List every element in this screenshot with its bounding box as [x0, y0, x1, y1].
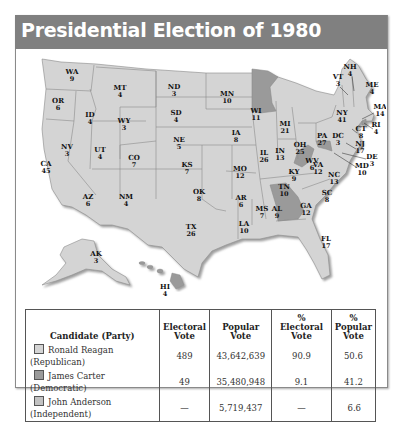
svg-text:6: 6: [56, 104, 61, 112]
svg-text:41: 41: [337, 116, 346, 124]
svg-text:3: 3: [336, 139, 341, 147]
svg-text:3: 3: [336, 80, 341, 88]
svg-text:7: 7: [185, 168, 190, 176]
svg-text:5: 5: [177, 143, 182, 151]
svg-text:21: 21: [280, 127, 289, 135]
svg-text:12: 12: [301, 209, 310, 217]
anderson-swatch: [34, 396, 44, 406]
svg-text:12: 12: [235, 172, 244, 180]
popular-vote: 35,480,948: [210, 369, 272, 395]
svg-text:6: 6: [86, 200, 91, 208]
svg-text:8: 8: [197, 195, 202, 203]
pct-electoral: 90.9: [272, 343, 332, 369]
svg-text:45: 45: [41, 167, 51, 175]
svg-text:6: 6: [239, 201, 244, 209]
pct-electoral: —: [272, 395, 332, 422]
svg-text:10: 10: [279, 190, 289, 198]
svg-text:3: 3: [172, 90, 177, 98]
svg-text:17: 17: [321, 242, 330, 250]
svg-text:8: 8: [325, 196, 330, 204]
header-popular-vote: Popular Vote: [210, 310, 272, 344]
results-table: Candidate (Party) Electoral Vote Popular…: [25, 309, 376, 422]
svg-text:4: 4: [374, 128, 379, 136]
svg-text:9: 9: [70, 75, 75, 83]
carter-swatch: [34, 370, 44, 380]
svg-text:9: 9: [275, 212, 280, 220]
svg-text:10: 10: [222, 97, 232, 105]
svg-text:10: 10: [357, 169, 367, 177]
svg-text:7: 7: [260, 212, 265, 220]
page-title: Presidential Election of 1980: [21, 19, 321, 41]
svg-text:8: 8: [359, 132, 364, 140]
svg-text:4: 4: [370, 88, 375, 96]
header-pct-popular: % Popular Vote: [331, 310, 375, 344]
svg-text:4: 4: [118, 91, 123, 99]
electoral-vote: —: [159, 395, 210, 422]
electoral-vote: 489: [159, 343, 210, 369]
title-bar: Presidential Election of 1980: [15, 15, 387, 49]
pct-popular: 50.6: [331, 343, 375, 369]
svg-text:8: 8: [234, 136, 239, 144]
svg-text:6: 6: [310, 164, 315, 172]
svg-text:26: 26: [186, 230, 196, 238]
header-pct-electoral: % Electoral Vote: [272, 310, 332, 344]
svg-text:4: 4: [98, 153, 103, 161]
reagan-swatch: [34, 344, 44, 354]
pct-popular: 41.2: [331, 369, 375, 395]
svg-text:7: 7: [132, 161, 137, 169]
pct-electoral: 9.1: [272, 369, 332, 395]
us-election-map: WA9 OR6 CA45 ID4 NV3 MT4 WY3 UT4 AZ6 CO7…: [16, 49, 386, 307]
svg-text:27: 27: [317, 139, 326, 147]
svg-text:11: 11: [251, 114, 260, 122]
svg-text:10: 10: [239, 227, 249, 235]
svg-text:9: 9: [292, 175, 297, 183]
header-candidate: Candidate (Party): [26, 310, 160, 344]
svg-text:4: 4: [88, 118, 93, 126]
svg-text:13: 13: [329, 178, 339, 186]
svg-text:3: 3: [65, 150, 70, 158]
svg-text:3: 3: [370, 160, 375, 168]
svg-text:26: 26: [259, 156, 269, 164]
header-electoral-vote: Electoral Vote: [159, 310, 210, 344]
svg-text:4: 4: [174, 116, 179, 124]
table-row: Ronald Reagan (Republican) 489 43,642,63…: [26, 343, 376, 369]
svg-text:4: 4: [163, 290, 168, 298]
svg-text:17: 17: [355, 147, 364, 155]
svg-text:14: 14: [375, 110, 385, 118]
table-row: John Anderson (Independent) — 5,719,437 …: [26, 395, 376, 422]
popular-vote: 5,719,437: [210, 395, 272, 422]
pct-popular: 6.6: [331, 395, 375, 422]
svg-text:25: 25: [295, 148, 305, 156]
svg-text:4: 4: [124, 200, 129, 208]
electoral-vote: 49: [159, 369, 210, 395]
svg-text:3: 3: [122, 124, 127, 132]
state-AK: [42, 239, 130, 285]
svg-text:3: 3: [94, 257, 99, 265]
popular-vote: 43,642,639: [210, 343, 272, 369]
svg-text:13: 13: [275, 154, 285, 162]
svg-text:12: 12: [313, 168, 322, 176]
table-row: James Carter (Democratic) 49 35,480,948 …: [26, 369, 376, 395]
